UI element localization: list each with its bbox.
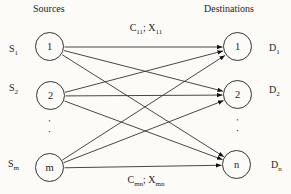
destination-node-2: 2: [223, 80, 252, 109]
edge-label-top-flow-sub: 11: [156, 28, 163, 36]
demand-label-dn: Dn: [271, 159, 282, 170]
supply-label-s2-sub: 2: [15, 88, 19, 96]
edge-label-bottom-cost-sub: mn: [134, 180, 143, 188]
demand-label-dn-sub: n: [278, 165, 282, 173]
source-node-1: 1: [35, 32, 64, 61]
demand-label-d1-sub: 1: [276, 48, 280, 56]
supply-label-sm-sub: m: [14, 164, 19, 172]
edge-sm-to-dn: [65, 165, 222, 168]
demand-label-d2: D2: [269, 84, 280, 95]
source-node-2: 2: [36, 81, 65, 110]
supply-label-s1-sub: 1: [15, 49, 19, 57]
edge-label-bottom-flow: X: [148, 174, 155, 185]
edge-label-cmn-xmn: Cmn; Xmn: [118, 174, 174, 185]
edge-s2-to-d2: [66, 95, 223, 96]
edge-label-bottom-flow-sub: mn: [156, 180, 165, 188]
supply-label-sm: Sm: [8, 158, 19, 169]
destinations-vertical-ellipsis: ··: [234, 118, 242, 139]
edge-label-top-flow: X: [148, 22, 155, 33]
destinations-heading: Destinations: [204, 3, 254, 14]
edge-s1-to-dn: [62, 55, 224, 157]
destination-node-n: n: [222, 150, 251, 179]
demand-label-d2-sub: 2: [276, 90, 280, 98]
edge-label-c11-x11: C11; X11: [118, 22, 174, 33]
supply-label-s2: S2: [9, 82, 18, 93]
sources-heading: Sources: [33, 3, 65, 14]
destination-node-1: 1: [223, 32, 252, 61]
supply-label-s1: S1: [9, 43, 18, 54]
source-node-m: m: [35, 153, 64, 182]
transportation-network-diagram: Sources Destinations S1 S2 Sm 1 2 m 1 2 …: [0, 0, 291, 194]
sources-vertical-ellipsis: ··: [46, 119, 54, 140]
demand-label-d1: D1: [269, 42, 280, 53]
